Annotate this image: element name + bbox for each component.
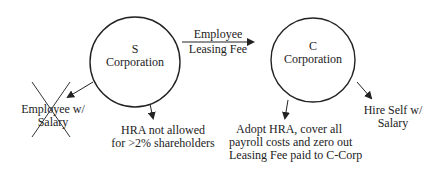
c-corporation-label: C Corporation — [273, 40, 353, 66]
adopt-hra-line3: Leasing Fee paid to C-Corp — [229, 149, 349, 162]
hire-self-line2: Salary — [355, 117, 431, 130]
s-corporation-label: S Corporation — [95, 43, 175, 69]
leasing-fee-line1: Employee — [180, 28, 256, 41]
leasing-fee-label: Employee Leasing Fee — [180, 28, 256, 56]
hra-not-allowed-label: HRA not allowed for >2% shareholders — [108, 124, 218, 150]
c-corp-line2: Corporation — [273, 53, 353, 66]
hire-self-arrow — [357, 82, 371, 98]
employee-salary-arrow — [68, 82, 93, 97]
s-corp-line2: Corporation — [95, 56, 175, 69]
employee-salary-line2: Salary — [15, 116, 91, 129]
leasing-fee-line2: Leasing Fee — [180, 43, 256, 56]
hire-self-label: Hire Self w/ Salary — [355, 104, 431, 130]
adopt-hra-arrow — [285, 100, 288, 118]
hra-not-allowed-arrow — [150, 104, 153, 118]
hra-not-allowed-line2: for >2% shareholders — [108, 137, 218, 150]
employee-salary-label: Employee w/ Salary — [15, 103, 91, 129]
adopt-hra-label: Adopt HRA, cover all payroll costs and z… — [229, 123, 349, 162]
